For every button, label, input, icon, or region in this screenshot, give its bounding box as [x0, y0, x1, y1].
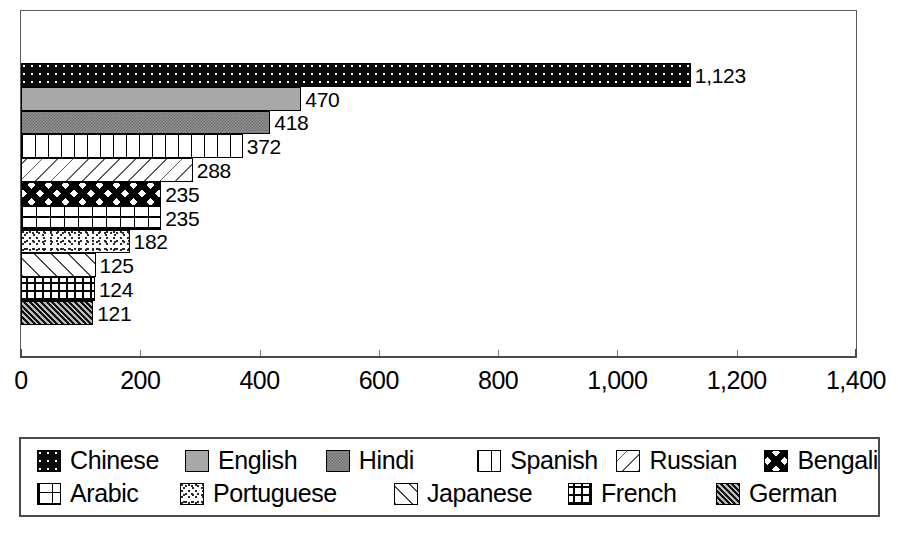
bar-row: 125 — [21, 253, 857, 277]
x-axis-tick-label: 400 — [239, 366, 279, 394]
bar-value-label: 418 — [270, 112, 308, 133]
legend-item-russian[interactable]: Russian — [616, 444, 764, 477]
x-axis-tick-label: 600 — [359, 366, 399, 394]
legend-swatch-portuguese — [180, 483, 204, 505]
legend-item-chinese[interactable]: Chinese — [37, 444, 185, 477]
bar-value-label: 121 — [93, 302, 131, 323]
bar-row: 418 — [21, 111, 857, 135]
x-axis-tick — [498, 350, 499, 356]
bars-container: 1,123470418372288235235182125124121 — [21, 63, 857, 325]
bar-value-label: 372 — [243, 136, 281, 157]
bar-chart: 1,123470418372288235235182125124121 0200… — [0, 0, 898, 551]
bar-arabic — [21, 206, 161, 230]
legend-swatch-arabic — [37, 483, 61, 505]
bar-row: 470 — [21, 87, 857, 111]
legend-rows: ChineseEnglishHindiSpanishRussianBengali… — [21, 439, 878, 515]
x-axis-tick — [617, 350, 618, 356]
x-axis-tick — [379, 350, 380, 356]
legend-label: Japanese — [427, 481, 532, 506]
bar-french — [21, 277, 95, 301]
legend-label: Arabic — [70, 481, 138, 506]
legend-row: ChineseEnglishHindiSpanishRussianBengali — [37, 444, 878, 477]
bar-english — [21, 87, 301, 111]
legend-item-bengali[interactable]: Bengali — [764, 444, 878, 477]
legend-swatch-spanish — [477, 450, 501, 472]
legend-item-arabic[interactable]: Arabic — [37, 477, 180, 510]
legend-swatch-german — [716, 483, 740, 505]
bar-row: 182 — [21, 230, 857, 254]
x-axis-line — [20, 356, 857, 358]
bar-bengali — [21, 182, 161, 206]
bar-chinese — [21, 63, 691, 87]
bar-spanish — [21, 134, 243, 158]
legend-box: ChineseEnglishHindiSpanishRussianBengali… — [19, 437, 880, 517]
legend-item-hindi[interactable]: Hindi — [326, 444, 477, 477]
x-axis-tick-label: 800 — [478, 366, 518, 394]
bar-value-label: 125 — [96, 255, 134, 276]
bar-row: 372 — [21, 134, 857, 158]
x-axis-tick — [737, 350, 738, 356]
legend-row: ArabicPortugueseJapaneseFrenchGerman — [37, 477, 878, 510]
legend-swatch-russian — [616, 450, 640, 472]
x-axis-tick-label: 1,400 — [826, 366, 886, 394]
legend-item-german[interactable]: German — [716, 477, 837, 510]
bar-portuguese — [21, 230, 130, 254]
bar-row: 121 — [21, 301, 857, 325]
x-axis-tick-label: 1,000 — [587, 366, 647, 394]
bar-value-label: 288 — [193, 160, 231, 181]
legend-item-portuguese[interactable]: Portuguese — [180, 477, 394, 510]
legend-swatch-hindi — [326, 450, 350, 472]
x-axis-tick-label: 1,200 — [707, 366, 767, 394]
bar-russian — [21, 158, 193, 182]
legend-label: Spanish — [510, 448, 598, 473]
x-axis-tick — [140, 350, 141, 356]
legend-swatch-french — [568, 483, 592, 505]
bar-hindi — [21, 111, 270, 135]
legend-swatch-japanese — [394, 483, 418, 505]
bar-row: 1,123 — [21, 63, 857, 87]
bar-value-label: 1,123 — [691, 64, 746, 85]
x-axis-tick-label: 0 — [14, 366, 27, 394]
legend-item-english[interactable]: English — [185, 444, 326, 477]
bar-row: 235 — [21, 182, 857, 206]
legend-label: Russian — [649, 448, 737, 473]
bar-value-label: 470 — [301, 88, 339, 109]
legend-item-spanish[interactable]: Spanish — [477, 444, 616, 477]
legend-swatch-bengali — [764, 450, 788, 472]
x-axis-right-cap — [855, 349, 857, 358]
bar-value-label: 235 — [161, 207, 199, 228]
legend-label: Portuguese — [213, 481, 337, 506]
legend-label: French — [601, 481, 676, 506]
legend-swatch-english — [185, 450, 209, 472]
bar-row: 124 — [21, 277, 857, 301]
legend-label: Bengali — [797, 448, 878, 473]
legend-item-japanese[interactable]: Japanese — [394, 477, 568, 510]
x-axis-tick-label: 200 — [120, 366, 160, 394]
legend-swatch-chinese — [37, 450, 61, 472]
legend-label: German — [749, 481, 837, 506]
bar-value-label: 182 — [130, 231, 168, 252]
bar-value-label: 235 — [161, 183, 199, 204]
bar-german — [21, 301, 93, 325]
x-axis-tick — [260, 350, 261, 356]
x-axis-left-cap — [20, 349, 22, 358]
bar-row: 288 — [21, 158, 857, 182]
bar-japanese — [21, 253, 96, 277]
legend-label: English — [218, 448, 297, 473]
bar-row: 235 — [21, 206, 857, 230]
legend-label: Hindi — [359, 448, 414, 473]
bar-value-label: 124 — [95, 279, 133, 300]
legend-label: Chinese — [70, 448, 159, 473]
legend-item-french[interactable]: French — [568, 477, 716, 510]
